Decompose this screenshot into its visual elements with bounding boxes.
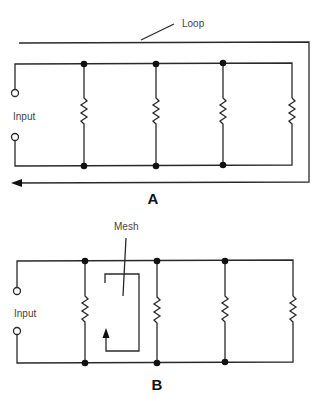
diagram-a: Loop Input A [11,18,309,207]
junction-node [82,360,89,367]
bottom-rail [17,324,293,363]
junction-node [222,258,229,265]
mesh-arrow-icon [103,328,110,338]
bottom-rail [15,126,292,166]
mesh-label: Mesh [114,221,138,232]
junction-node [220,60,227,67]
junction-node [81,163,88,170]
caption-a: A [148,190,159,207]
mesh-path [105,274,139,351]
input-terminal-top [14,288,21,295]
junction-node [153,163,160,170]
caption-b: B [152,376,163,393]
top-rail [15,63,292,98]
junction-node [153,61,160,68]
resistor-2 [153,64,159,166]
loop-arrow-icon [11,179,22,187]
loop-leader-line [141,24,174,40]
circuit-diagrams: Loop Input A Input [0,0,321,397]
resistor-3 [222,261,228,362]
resistor-1 [82,261,88,363]
junction-node [220,162,227,169]
mesh-leader-line [123,238,126,296]
junction-node [82,258,89,265]
input-label: Input [14,308,36,319]
resistor-3 [220,63,226,165]
resistor-4 [290,296,296,324]
input-terminal-bottom [14,328,21,335]
resistor-4 [289,98,295,126]
input-terminal-top [12,90,19,97]
junction-node [81,61,88,68]
resistor-1 [81,64,87,166]
input-terminal-bottom [12,134,19,141]
resistor-2 [154,261,160,363]
junction-node [154,360,161,367]
input-label: Input [13,111,35,122]
junction-node [222,359,229,366]
loop-label: Loop [182,18,205,29]
junction-node [154,258,161,265]
diagram-b: Input Mesh B [14,221,297,393]
top-rail [17,260,293,296]
